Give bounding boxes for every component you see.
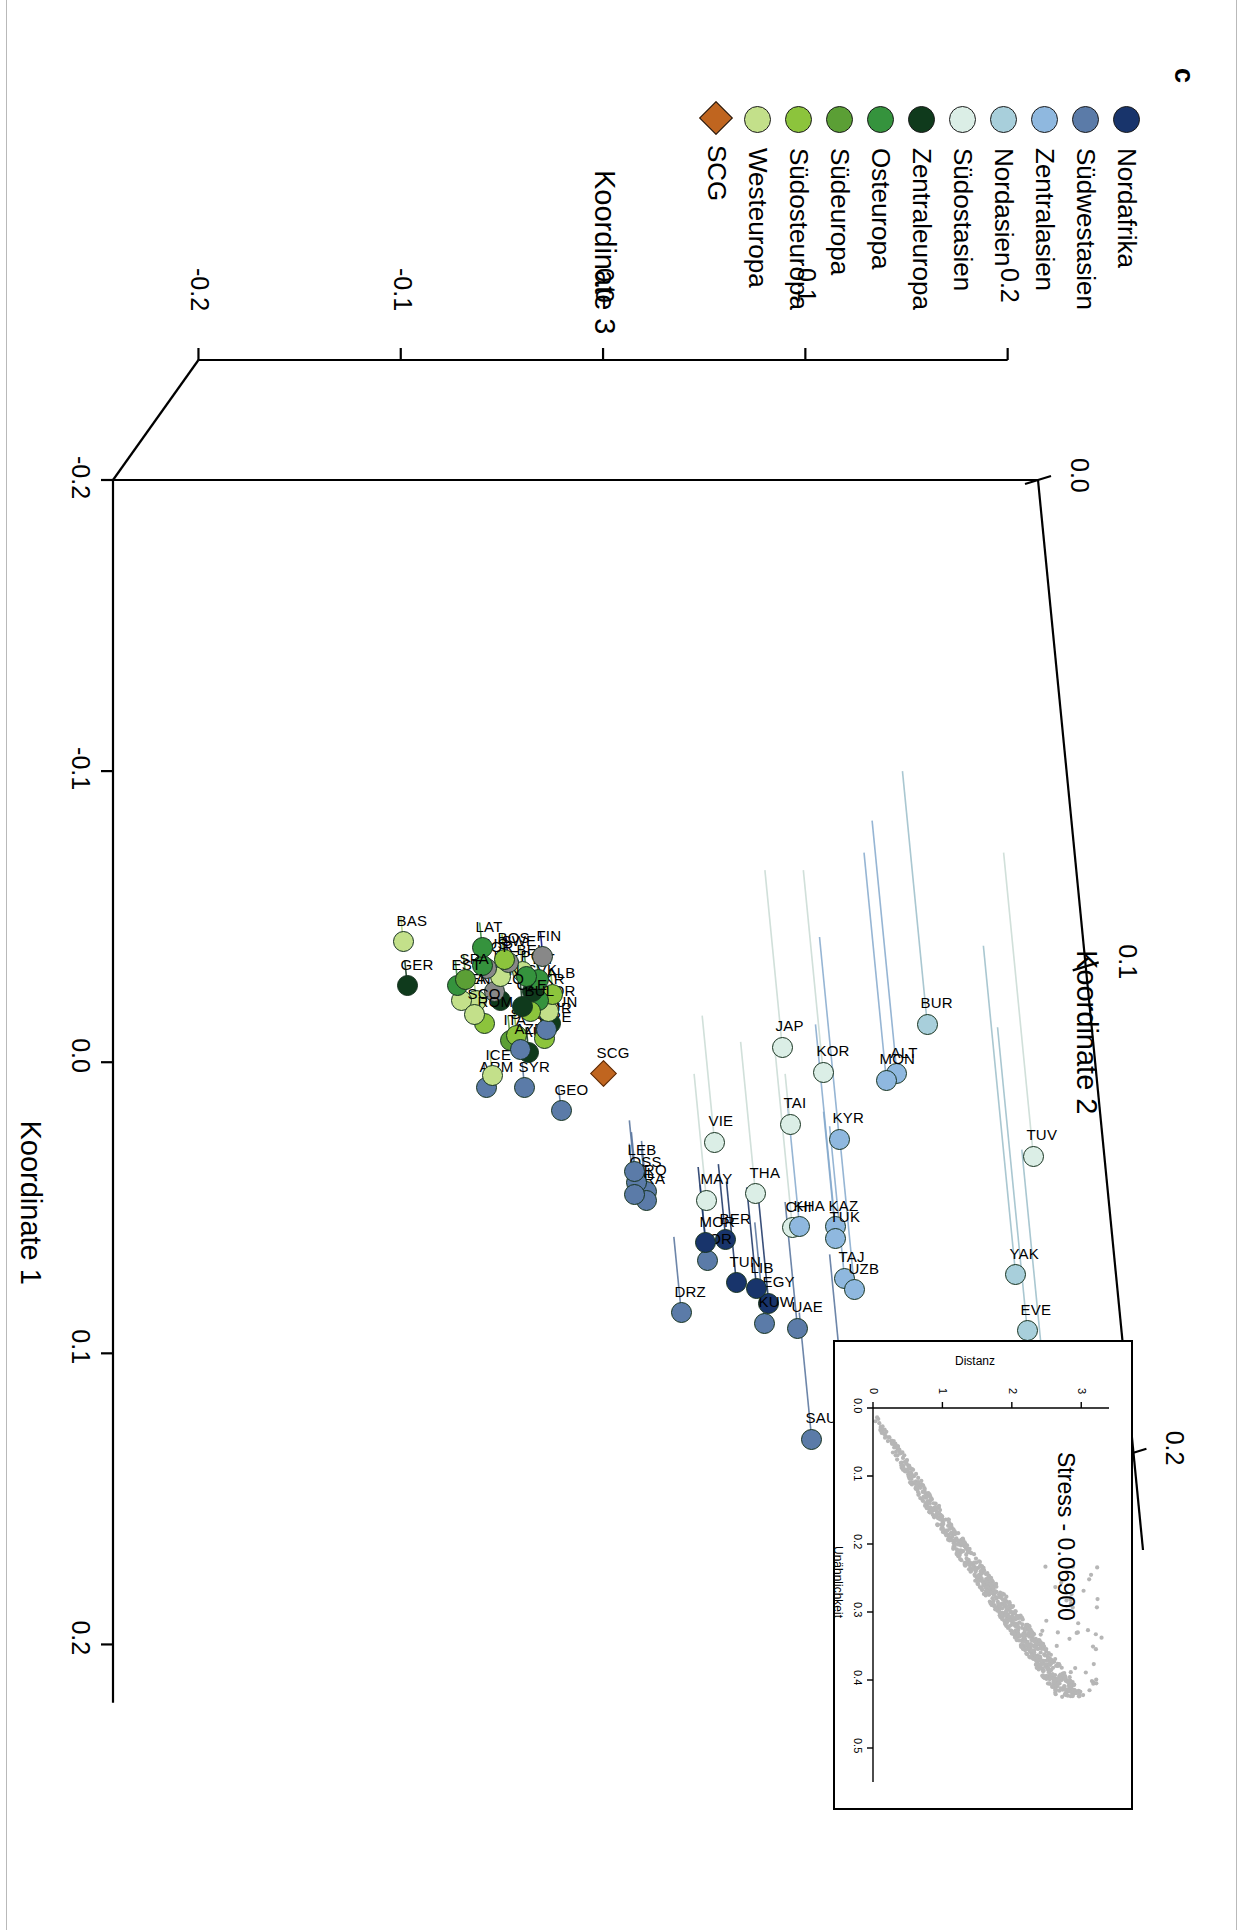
legend-swatch-circle-icon	[785, 106, 812, 133]
inset-y-tick-label: 2	[1006, 1388, 1018, 1394]
data-point-label: KOR	[816, 1042, 849, 1059]
legend-item-label: Zentraleuropa	[906, 148, 937, 310]
legend-item: Zentralasien	[1024, 106, 1065, 310]
shepard-diagram-inset: Stress - 0.06900 0.00.10.20.30.40.50123	[833, 1340, 1133, 1810]
data-point	[875, 1070, 896, 1091]
x-axis-title: Koordinate 1	[14, 1120, 47, 1284]
inset-x-axis-title: Unähnlichkeit	[831, 1546, 845, 1618]
data-point-label: SCO	[467, 984, 500, 1001]
legend-item-label: Nordafrika	[1111, 148, 1142, 268]
shepard-points-svg	[835, 1342, 1131, 1808]
data-point	[532, 946, 553, 967]
data-point	[623, 1161, 644, 1182]
data-point	[512, 996, 533, 1017]
x-axis-tick-label: 0.1	[66, 1329, 95, 1364]
data-point-label: UZB	[848, 1259, 879, 1276]
data-point-label: TUN	[729, 1252, 760, 1269]
data-point	[623, 1184, 644, 1205]
data-point	[1022, 1146, 1043, 1167]
data-point-label: KHA	[793, 1196, 824, 1213]
data-point	[771, 1037, 792, 1058]
data-point	[396, 975, 417, 996]
data-point-label: DRZ	[674, 1282, 705, 1299]
inset-x-tick-label: 0.1	[852, 1466, 864, 1481]
data-point	[704, 1132, 725, 1153]
data-point	[801, 1429, 822, 1450]
data-point	[695, 1232, 716, 1253]
data-point-label: SCG	[596, 1043, 629, 1060]
data-point-label: BAS	[396, 911, 427, 928]
inset-x-tick-label: 0.4	[852, 1670, 864, 1685]
data-point-label: VIE	[708, 1112, 733, 1129]
legend-swatch-circle-icon	[949, 106, 976, 133]
y-axis-title: Koordinate 3	[588, 170, 621, 334]
data-point	[697, 1250, 718, 1271]
legend-swatch-circle-icon	[1031, 106, 1058, 133]
data-point	[510, 1039, 531, 1060]
data-point-label: SAU	[805, 1409, 836, 1426]
data-point-label: LAT	[475, 917, 502, 934]
data-point-label: MAY	[700, 1170, 732, 1187]
stress-label: Stress - 0.06900	[1052, 1452, 1079, 1621]
inset-x-tick-label: 0.5	[852, 1738, 864, 1753]
y-axis-tick-label: 0.2	[994, 268, 1023, 303]
data-point-label: MON	[879, 1050, 915, 1067]
data-point-label: UAE	[791, 1298, 822, 1315]
data-point-label: YAK	[1009, 1244, 1039, 1261]
data-point	[779, 1114, 800, 1135]
y-axis-tick-label: 0.0	[590, 268, 619, 303]
panel-letter: c	[1168, 68, 1199, 83]
data-point	[787, 1318, 808, 1339]
data-point-label: GER	[400, 955, 433, 972]
legend-item: Südostasien	[942, 106, 983, 310]
legend-item-label: Südwestasien	[1070, 148, 1101, 310]
legend-item-label: Nordasien	[988, 148, 1019, 267]
figure-canvas: c NordafrikaSüdwestasienZentralasienNord…	[33, 50, 1213, 1880]
x-axis-tick-label: -0.2	[66, 456, 95, 499]
data-point	[550, 1100, 571, 1121]
data-point-label: TUK	[829, 1208, 860, 1225]
legend-swatch-circle-icon	[1072, 106, 1099, 133]
data-point	[754, 1313, 775, 1334]
data-point-label: JAP	[775, 1017, 803, 1034]
z-axis-tick-label: 0.1	[1112, 944, 1141, 979]
data-point	[392, 931, 413, 952]
data-point-label: EVE	[1020, 1300, 1051, 1317]
figure-page: c NordafrikaSüdwestasienZentralasienNord…	[0, 0, 1245, 1930]
data-point-label: LEB	[627, 1141, 656, 1158]
legend-item-label: Westeuropa	[742, 148, 773, 288]
data-point	[789, 1216, 810, 1237]
legend-item: Nordafrika	[1106, 106, 1147, 310]
rotated-figure-wrapper: c NordafrikaSüdwestasienZentralasienNord…	[33, 50, 1213, 1880]
x-axis-tick-label: 0.2	[66, 1620, 95, 1655]
inset-y-tick-label: 0	[868, 1388, 880, 1394]
legend-item-label: Zentralasien	[1029, 148, 1060, 291]
z-axis-tick-label: 0.2	[1160, 1431, 1189, 1466]
data-point	[844, 1279, 865, 1300]
data-point	[1016, 1320, 1037, 1341]
inset-x-tick-label: 0.0	[852, 1398, 864, 1413]
legend-item: SCG	[696, 106, 737, 310]
inset-y-axis-title: Distanz	[955, 1354, 995, 1368]
data-point	[589, 1060, 616, 1087]
legend-swatch-circle-icon	[867, 106, 894, 133]
data-point	[828, 1129, 849, 1150]
y-axis-tick-label: -0.1	[387, 268, 416, 311]
legend-item: Südwestasien	[1065, 106, 1106, 310]
legend-item-label: Osteuropa	[865, 148, 896, 269]
data-point	[696, 1190, 717, 1211]
legend-swatch-circle-icon	[826, 106, 853, 133]
inset-y-tick-label: 1	[937, 1388, 949, 1394]
legend-item: Westeuropa	[737, 106, 778, 310]
legend-item-label: SCG	[701, 145, 732, 201]
z-axis-tick-label: 0.0	[1065, 458, 1094, 493]
y-axis-tick-label: 0.1	[792, 268, 821, 303]
data-point-label: MOR	[699, 1212, 735, 1229]
x-axis-tick-label: -0.1	[66, 747, 95, 790]
data-point	[1005, 1264, 1026, 1285]
data-point	[745, 1183, 766, 1204]
data-point-label: TUV	[1026, 1126, 1057, 1143]
inset-x-tick-label: 0.2	[852, 1534, 864, 1549]
data-point-label: SPA	[459, 949, 489, 966]
data-point	[514, 1077, 535, 1098]
